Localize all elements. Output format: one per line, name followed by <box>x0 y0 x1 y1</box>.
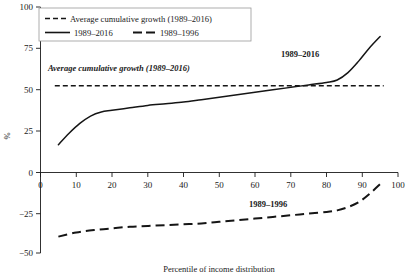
y-tick-label: 100 <box>20 2 34 12</box>
x-tick-label: 10 <box>72 180 82 190</box>
y-axis-title: % <box>2 132 12 139</box>
legend-label-1989-2016: 1989–2016 <box>74 28 113 38</box>
series-1989-1996 <box>58 184 380 236</box>
y-tick-label: 0 <box>29 168 34 178</box>
y-tick-label: −50 <box>19 248 34 258</box>
annotation-1989-1996: 1989–1996 <box>249 199 287 209</box>
x-tick-label: 90 <box>358 180 368 190</box>
x-tick-label: 80 <box>322 180 332 190</box>
x-tick-label: 50 <box>215 180 225 190</box>
x-tick-label: 20 <box>108 180 118 190</box>
x-tick-label: 30 <box>143 180 153 190</box>
y-tick-label: 50 <box>24 85 34 95</box>
x-tick-labels: 0 10 20 30 40 50 60 70 80 90 100 <box>38 180 405 190</box>
chart-container: 100 75 50 25 0 −25 −50 % 0 10 <box>0 0 405 274</box>
legend-label-1989-1996: 1989–1996 <box>160 28 199 38</box>
annotation-average-growth: Average cumulative growth (1989–2016) <box>47 63 190 73</box>
x-tick-label: 0 <box>38 180 43 190</box>
x-tick-label: 100 <box>391 180 405 190</box>
y-tick-marks <box>36 7 41 253</box>
x-axis-title: Percentile of income distribution <box>163 264 275 274</box>
x-tick-label: 40 <box>179 180 189 190</box>
line-chart-svg: 100 75 50 25 0 −25 −50 % 0 10 <box>0 0 405 274</box>
y-tick-labels: 100 75 50 25 0 −25 −50 <box>19 2 34 258</box>
y-tick-label: 75 <box>24 43 34 53</box>
x-tick-label: 60 <box>251 180 261 190</box>
series-1989-2016 <box>58 37 380 145</box>
x-tick-label: 70 <box>286 180 296 190</box>
legend-label-average-growth: Average cumulative growth (1989–2016) <box>70 14 212 24</box>
annotation-1989-2016: 1989–2016 <box>281 49 319 59</box>
y-tick-label: −25 <box>19 209 34 219</box>
chart-legend: Average cumulative growth (1989–2016) 19… <box>39 8 251 41</box>
y-tick-label: 25 <box>24 126 34 136</box>
x-tick-marks <box>41 173 399 178</box>
